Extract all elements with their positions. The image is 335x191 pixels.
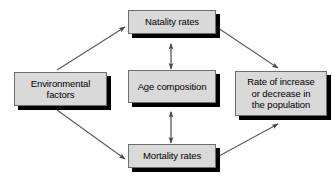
- node-mortality-rates: Mortality rates: [128, 144, 216, 168]
- node-environmental-factors: Environmental factors: [14, 72, 107, 106]
- node-environmental-factors-label: Environmental factors: [28, 78, 93, 101]
- node-age-composition-label: Age composition: [135, 81, 210, 93]
- node-mortality-rates-label: Mortality rates: [140, 150, 204, 162]
- arrow-mortality-to-rate: [219, 124, 278, 156]
- node-rate-of-increase-or-decrease-label: Rate of increase or decrease in the popu…: [244, 76, 318, 111]
- arrow-environmental-to-mortality: [57, 110, 125, 159]
- node-age-composition: Age composition: [128, 70, 216, 103]
- arrow-environmental-to-natality: [57, 27, 125, 70]
- population-dynamics-diagram: Environmental factors Natality rates Age…: [0, 0, 335, 191]
- arrow-natality-to-rate: [218, 28, 278, 68]
- node-rate-of-increase-or-decrease: Rate of increase or decrease in the popu…: [235, 71, 327, 116]
- node-natality-rates-label: Natality rates: [142, 16, 202, 28]
- node-natality-rates: Natality rates: [128, 10, 216, 34]
